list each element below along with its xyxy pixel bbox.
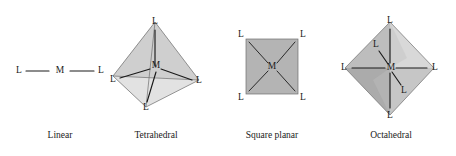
octahedral-ligand-right-label: L — [432, 62, 438, 72]
octahedral-diagram: M L L L L L L Octahedral — [0, 0, 456, 156]
octahedral-ligand-front-label: L — [401, 85, 407, 95]
octahedral-ligand-top-label: L — [387, 15, 393, 25]
octahedral-center-label: M — [387, 62, 396, 72]
octahedral-ligand-bottom-label: L — [387, 110, 393, 120]
octahedral-group: M L L L L L L Octahedral — [341, 15, 438, 140]
octahedral-ligand-back-label: L — [373, 39, 379, 49]
octahedral-ligand-left-label: L — [341, 62, 347, 72]
coordination-geometry-figure: L M L Linear L M L L L T — [0, 0, 456, 156]
octahedral-caption: Octahedral — [370, 130, 412, 140]
